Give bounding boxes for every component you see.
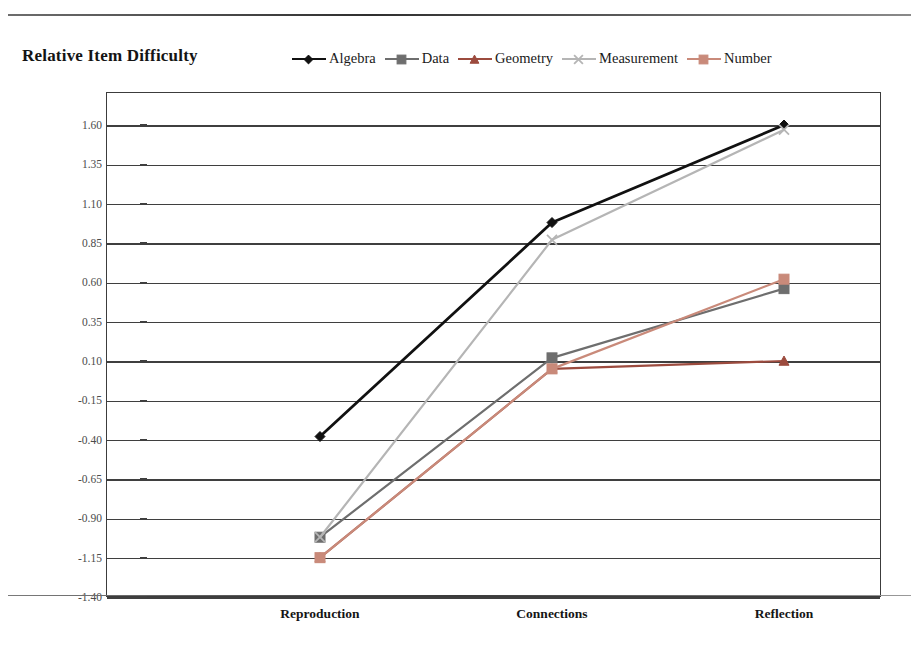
legend-label: Algebra [328, 50, 376, 67]
y-axis-tick-label: -1.15 [44, 552, 102, 564]
y-axis-tick-label: -0.40 [44, 434, 102, 446]
y-axis-tick-label: -0.65 [44, 473, 102, 485]
series-algebra [315, 120, 789, 442]
legend-label: Number [723, 50, 772, 67]
x-axis: ReproductionConnectionsReflection [106, 606, 881, 630]
y-axis-tick-label: 0.85 [44, 237, 102, 249]
footer-rule [8, 595, 911, 596]
legend-swatch-square-icon [385, 52, 419, 66]
legend-swatch-diamond-icon [292, 52, 326, 66]
legend-item-measurement[interactable]: Measurement [562, 50, 678, 67]
x-axis-tick-label-reproduction: Reproduction [280, 606, 359, 622]
page-root: Relative Item Difficulty AlgebraDataGeom… [0, 0, 919, 661]
y-axis-tick-label: 1.35 [44, 158, 102, 170]
legend-swatch-square-icon [687, 52, 721, 66]
chart-series-layer [106, 92, 881, 597]
y-axis-tick-label: -0.90 [44, 512, 102, 524]
legend-item-geometry[interactable]: Geometry [458, 50, 553, 67]
legend-item-data[interactable]: Data [385, 50, 449, 67]
y-axis-tick-label: 0.35 [44, 316, 102, 328]
chart-title: Relative Item Difficulty [22, 46, 198, 66]
y-axis-tick-label: -0.15 [44, 394, 102, 406]
y-axis-tick-label: 1.60 [44, 119, 102, 131]
y-axis: 1.601.351.100.850.600.350.10-0.15-0.40-0… [40, 92, 102, 597]
cropped-header-text [300, 0, 620, 5]
y-axis-tick-label: -1.40 [44, 591, 102, 603]
x-axis-tick-label-reflection: Reflection [755, 606, 813, 622]
series-measurement [315, 125, 789, 542]
legend-swatch-triangle-icon [458, 52, 492, 66]
y-axis-tick-label: 0.10 [44, 355, 102, 367]
gridline [107, 597, 880, 599]
legend-label: Geometry [494, 50, 553, 67]
y-axis-tick-label: 1.10 [44, 198, 102, 210]
y-axis-tick-label: 0.60 [44, 276, 102, 288]
series-number [315, 274, 789, 562]
legend-label: Measurement [598, 50, 678, 67]
chart-legend: AlgebraDataGeometryMeasurementNumber [292, 50, 772, 67]
series-geometry [315, 356, 789, 562]
x-axis-tick-label-connections: Connections [516, 606, 587, 622]
legend-item-algebra[interactable]: Algebra [292, 50, 376, 67]
legend-item-number[interactable]: Number [687, 50, 772, 67]
header-rule-top [8, 14, 911, 16]
legend-label: Data [421, 50, 449, 67]
legend-swatch-x-icon [562, 52, 596, 66]
